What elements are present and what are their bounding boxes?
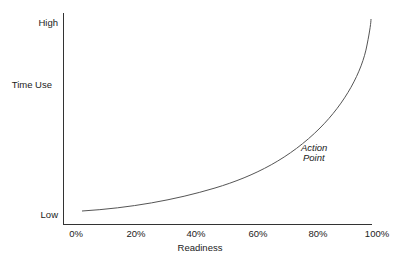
y-label-low: Low <box>41 209 59 220</box>
x-tick-0: 0% <box>69 228 83 239</box>
x-tick-40: 40% <box>186 228 206 239</box>
y-label-high: High <box>38 17 58 28</box>
annotation-point: Point <box>303 152 325 163</box>
x-axis-title: Readiness <box>178 242 223 253</box>
time-use-curve <box>82 19 371 211</box>
x-tick-20: 20% <box>126 228 146 239</box>
x-tick-80: 80% <box>308 228 328 239</box>
chart: High Time Use Low 0% 20% 40% 60% 80% 100… <box>0 0 404 265</box>
x-tick-100: 100% <box>365 228 390 239</box>
x-tick-60: 60% <box>248 228 268 239</box>
y-axis-title: Time Use <box>12 79 52 90</box>
